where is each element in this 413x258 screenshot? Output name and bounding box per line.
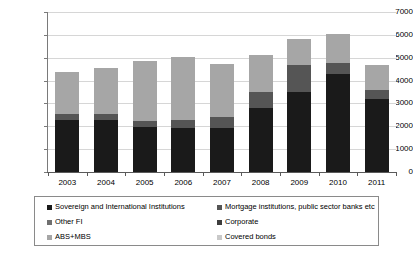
x-tick-label-2005: 2005 xyxy=(125,178,164,187)
legend-swatch-icon xyxy=(217,220,222,225)
legend-label: Corporate xyxy=(225,218,258,226)
x-tick-mark xyxy=(357,172,358,176)
x-tick-mark xyxy=(396,172,397,176)
legend-swatch-icon xyxy=(47,205,52,210)
bar-2003 xyxy=(55,12,79,172)
bar-segment xyxy=(287,39,311,65)
x-tick-mark xyxy=(87,172,88,176)
legend-item[interactable]: ABS+MBS xyxy=(47,230,217,244)
legend-column-right: Mortgage institutions, public sector ban… xyxy=(217,200,387,245)
legend-item[interactable]: Other FI xyxy=(47,215,217,229)
bar-segment xyxy=(249,55,273,91)
bar-2004 xyxy=(94,12,118,172)
bar-segment xyxy=(55,120,79,172)
bar-segment xyxy=(287,65,311,92)
bar-segment xyxy=(287,92,311,172)
chart-legend: Sovereign and International Institutions… xyxy=(34,196,379,246)
x-tick-label-2007: 2007 xyxy=(203,178,242,187)
legend-swatch-icon xyxy=(217,205,222,210)
legend-swatch-icon xyxy=(47,220,52,225)
bar-segment xyxy=(55,72,79,114)
bar-segment xyxy=(249,108,273,172)
bar-segment xyxy=(210,117,234,128)
bar-segment xyxy=(326,63,350,75)
x-tick-label-2006: 2006 xyxy=(164,178,203,187)
bar-segment xyxy=(133,121,157,128)
x-tick-label-2010: 2010 xyxy=(319,178,358,187)
x-tick-mark xyxy=(241,172,242,176)
bar-2007 xyxy=(210,12,234,172)
bar-2010 xyxy=(326,12,350,172)
bar-segment xyxy=(210,64,234,117)
bar-segment xyxy=(171,57,195,120)
legend-label: Sovereign and International Institutions xyxy=(55,203,185,211)
x-tick-label-2011: 2011 xyxy=(357,178,396,187)
bar-segment xyxy=(210,128,234,172)
plot-canvas xyxy=(48,12,396,172)
bar-2011 xyxy=(365,12,389,172)
bar-segment xyxy=(171,120,195,128)
legend-label: Mortgage institutions, public sector ban… xyxy=(225,203,375,211)
bar-2006 xyxy=(171,12,195,172)
legend-item[interactable]: Corporate xyxy=(217,215,387,229)
x-tick-label-2009: 2009 xyxy=(280,178,319,187)
x-tick-label-2008: 2008 xyxy=(241,178,280,187)
bar-segment xyxy=(133,61,157,121)
bar-segment xyxy=(94,120,118,172)
bar-2009 xyxy=(287,12,311,172)
x-tick-mark xyxy=(48,172,49,176)
legend-item[interactable]: Covered bonds xyxy=(217,230,387,244)
legend-column-left: Sovereign and International Institutions… xyxy=(47,200,217,245)
bar-segment xyxy=(365,90,389,99)
bar-segment xyxy=(133,127,157,172)
legend-item[interactable]: Mortgage institutions, public sector ban… xyxy=(217,200,387,214)
x-tick-label-2004: 2004 xyxy=(87,178,126,187)
bar-segment xyxy=(326,74,350,172)
bar-segment xyxy=(94,68,118,114)
bar-segment xyxy=(326,34,350,63)
x-tick-mark xyxy=(319,172,320,176)
legend-label: ABS+MBS xyxy=(55,233,91,241)
bar-2008 xyxy=(249,12,273,172)
x-tick-label-2003: 2003 xyxy=(48,178,87,187)
bar-segment xyxy=(365,65,389,90)
x-tick-mark xyxy=(203,172,204,176)
bar-segment xyxy=(365,99,389,172)
legend-swatch-icon xyxy=(217,235,222,240)
legend-label: Other FI xyxy=(55,218,83,226)
plot-area: 70006000500040003000200010000 2003200420… xyxy=(0,0,413,190)
x-tick-mark xyxy=(164,172,165,176)
x-tick-mark xyxy=(280,172,281,176)
legend-item[interactable]: Sovereign and International Institutions xyxy=(47,200,217,214)
bar-segment xyxy=(249,92,273,108)
legend-swatch-icon xyxy=(47,235,52,240)
x-tick-mark xyxy=(125,172,126,176)
stacked-bar-chart: 70006000500040003000200010000 2003200420… xyxy=(0,0,413,258)
bar-2005 xyxy=(133,12,157,172)
bar-segment xyxy=(171,128,195,172)
legend-label: Covered bonds xyxy=(225,233,276,241)
x-axis-line xyxy=(47,172,396,173)
